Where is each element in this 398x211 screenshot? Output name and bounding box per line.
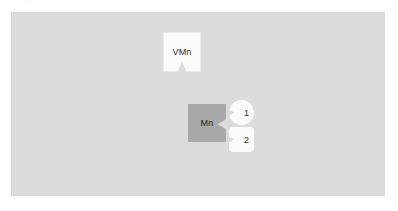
clipped-top-text: ... (24, 0, 32, 4)
badge-one-shape (229, 100, 254, 125)
clipped-top-text-strip: ... (0, 0, 398, 11)
node-mn[interactable]: Mn (188, 104, 226, 142)
badge-two-shape (229, 127, 254, 152)
node-vmn[interactable]: VMn (163, 32, 201, 72)
badge-two[interactable]: 2 (229, 127, 254, 152)
diagram-canvas[interactable]: VMn Mn 1 2 (11, 12, 385, 196)
node-vmn-shape (163, 32, 201, 72)
node-mn-shape (188, 104, 226, 142)
badge-one[interactable]: 1 (229, 100, 254, 125)
